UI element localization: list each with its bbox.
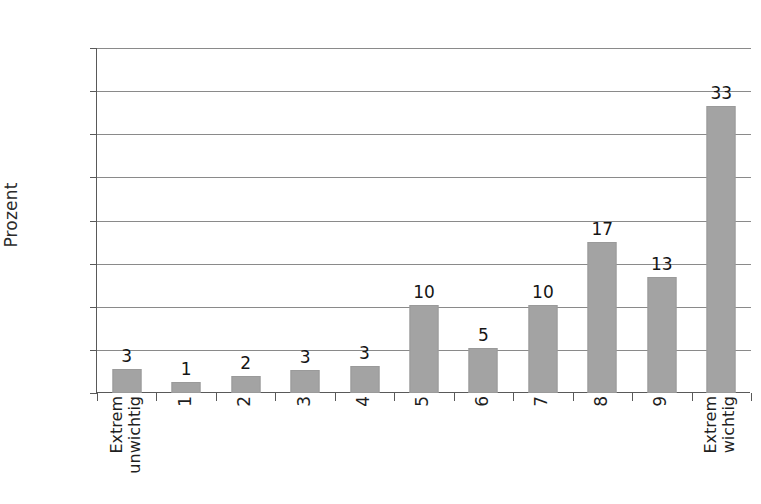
y-tick-mark <box>90 91 97 92</box>
x-axis-category-labels: Extremunwichtig123456789Extremwichtig <box>96 396 750 504</box>
x-category-label-line: 8 <box>593 396 610 407</box>
bar-value-label: 2 <box>240 353 251 373</box>
bar-slot: 3 <box>275 48 334 393</box>
x-category-label: 3 <box>274 396 333 504</box>
y-tick-mark <box>90 221 97 222</box>
x-category-label-line: 2 <box>236 396 253 407</box>
bar-slot: 3 <box>335 48 394 393</box>
y-tick-mark <box>90 393 97 394</box>
bar-slot: 5 <box>454 48 513 393</box>
bar-slot: 13 <box>632 48 691 393</box>
bar-value-label: 3 <box>300 347 311 367</box>
x-tick-mark <box>751 393 752 401</box>
x-category-label-line: Extrem <box>703 396 719 454</box>
bar-value-label: 17 <box>592 219 614 239</box>
y-tick-mark <box>90 134 97 135</box>
bar[interactable] <box>172 382 201 393</box>
x-category-label-line: 9 <box>652 396 669 407</box>
bar-value-label: 1 <box>181 359 192 379</box>
bar[interactable] <box>588 242 617 393</box>
bar-value-label: 10 <box>532 282 554 302</box>
bar-value-label: 3 <box>359 343 370 363</box>
bar-value-label: 3 <box>121 346 132 366</box>
y-tick-mark <box>90 307 97 308</box>
bar-slot: 33 <box>692 48 751 393</box>
x-category-label: 4 <box>334 396 393 504</box>
bar[interactable] <box>647 277 676 393</box>
y-tick-mark <box>90 350 97 351</box>
x-category-label: Extremwichtig <box>691 396 750 504</box>
x-category-label: 6 <box>453 396 512 504</box>
bar-slot: 2 <box>216 48 275 393</box>
bar-value-label: 33 <box>710 83 732 103</box>
plot-area: 0510152025303540 3123310510171333 <box>96 48 750 393</box>
bar-series: 3123310510171333 <box>97 48 751 393</box>
bar[interactable] <box>528 305 557 393</box>
bar[interactable] <box>409 305 438 393</box>
x-category-label: 1 <box>155 396 214 504</box>
y-tick-mark <box>90 48 97 49</box>
x-category-label: 7 <box>512 396 571 504</box>
x-category-label-line: 7 <box>533 396 550 407</box>
x-category-label-line: Extrem <box>109 396 125 454</box>
x-category-label-line: 3 <box>296 396 313 407</box>
y-tick-mark <box>90 177 97 178</box>
x-category-label-line: 1 <box>177 396 194 407</box>
bar-value-label: 13 <box>651 254 673 274</box>
bar-slot: 17 <box>573 48 632 393</box>
bar-slot: 3 <box>97 48 156 393</box>
y-axis-title: Prozent <box>1 155 21 275</box>
bar[interactable] <box>112 369 141 393</box>
bar[interactable] <box>350 366 379 393</box>
x-category-label-line: 4 <box>355 396 372 407</box>
bar-slot: 10 <box>513 48 572 393</box>
x-category-label-line: wichtig <box>721 396 737 453</box>
x-category-label-line: 6 <box>474 396 491 407</box>
bar[interactable] <box>231 376 260 393</box>
x-category-label: 9 <box>631 396 690 504</box>
bar-value-label: 5 <box>478 325 489 345</box>
x-category-label-line: 5 <box>414 396 431 407</box>
x-category-label: 5 <box>393 396 452 504</box>
bar[interactable] <box>291 370 320 393</box>
bar-slot: 1 <box>156 48 215 393</box>
x-category-label: 2 <box>215 396 274 504</box>
bar-chart: Prozent 0510152025303540 312331051017133… <box>0 0 761 504</box>
x-category-label: Extremunwichtig <box>96 396 155 504</box>
bar-slot: 10 <box>394 48 453 393</box>
bar[interactable] <box>707 106 736 393</box>
bar-value-label: 10 <box>413 282 435 302</box>
x-category-label: 8 <box>572 396 631 504</box>
y-tick-mark <box>90 264 97 265</box>
x-category-label-line: unwichtig <box>127 396 143 474</box>
bar[interactable] <box>469 348 498 393</box>
